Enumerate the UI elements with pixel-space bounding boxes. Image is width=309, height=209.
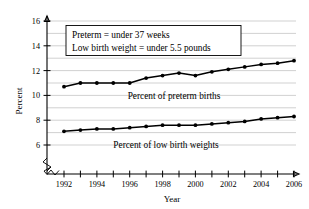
data-point [177,123,181,127]
data-point [194,74,198,78]
data-point [161,74,165,78]
data-point [292,59,296,63]
lowbirthweight-series-label: Percent of low birth weights [113,140,219,150]
data-point [144,125,148,129]
definitions-note-box: Preterm = under 37 weeks Low birth weigh… [66,26,241,56]
data-point [243,120,247,124]
chart-canvas: 16 14 12 10 8 6 Percent [0,0,309,209]
data-point [128,81,132,85]
x-tick-label-1996: 1996 [122,180,138,189]
data-point [177,71,181,75]
x-tick-label-2000: 2000 [187,180,203,189]
x-tick-label-2006: 2006 [286,180,302,189]
axis-break-symbol [43,158,59,175]
data-point [161,123,165,127]
x-tick-label-2002: 2002 [220,180,236,189]
y-axis-title: Percent [14,87,24,114]
data-point [194,123,198,127]
data-point [62,85,66,89]
data-point [259,117,263,121]
data-point [259,63,263,67]
y-tick-label-12: 12 [32,67,40,76]
x-axis: 1992 1994 1996 1998 2000 2002 2004 2006 … [47,171,302,204]
data-point [79,128,83,132]
y-tick-label-16: 16 [32,17,40,26]
y-tick-label-14: 14 [32,42,40,51]
data-point [79,81,83,85]
x-axis-title: Year [164,194,181,204]
x-tick-label-1992: 1992 [56,180,72,189]
data-point [111,127,115,131]
data-point [292,115,296,119]
x-tick-label-1994: 1994 [89,180,105,189]
y-tick-label-10: 10 [32,91,40,100]
x-tick-label-1998: 1998 [154,180,170,189]
data-point [226,67,230,71]
y-tick-label-8: 8 [36,116,40,125]
data-point [128,126,132,130]
data-point [210,122,214,126]
note-line-2: Low birth weight = under 5.5 pounds [72,43,211,53]
data-point [144,76,148,80]
y-tick-label-6: 6 [36,141,40,150]
preterm-series-label: Percent of preterm births [128,91,221,101]
data-point [276,116,280,120]
data-point [276,61,280,65]
x-tick-label-2004: 2004 [253,180,269,189]
data-point [243,65,247,69]
data-point [95,81,99,85]
note-line-1: Preterm = under 37 weeks [72,30,170,40]
data-point [226,121,230,125]
line-chart: 16 14 12 10 8 6 Percent [0,0,309,209]
data-point [111,81,115,85]
data-point [95,127,99,131]
data-point [210,70,214,74]
series-preterm-births [62,59,296,89]
series-low-birth-weights [62,115,296,134]
data-point [62,129,66,133]
y-axis: 16 14 12 10 8 6 Percent [14,16,51,174]
